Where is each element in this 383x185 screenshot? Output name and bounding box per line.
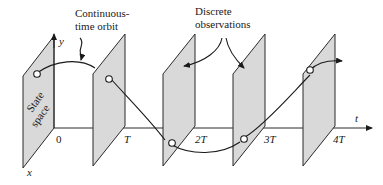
- state-plane-4T: [303, 34, 335, 166]
- t-axis-label: t: [355, 112, 359, 124]
- state-space-diagram: Continuous- time orbit Discrete observat…: [0, 0, 383, 185]
- time-tick-T: T: [124, 133, 131, 145]
- observation-point-0: [34, 71, 41, 78]
- observation-point-3T: [241, 136, 248, 143]
- state-plane-2T: [163, 34, 195, 166]
- time-tick-0: 0: [56, 133, 62, 145]
- observation-point-2T: [169, 140, 176, 147]
- state-plane-T: [93, 34, 125, 166]
- x-axis-label: x: [26, 166, 32, 178]
- continuous-orbit-label-line2: time orbit: [75, 20, 118, 32]
- y-axis-label: y: [58, 35, 64, 47]
- state-plane-3T: [233, 34, 265, 166]
- time-tick-2T: 2T: [195, 133, 208, 145]
- discrete-observations-label-line1: Discrete: [195, 5, 232, 17]
- observation-point-4T: [307, 67, 314, 74]
- time-tick-3T: 3T: [263, 133, 277, 145]
- observation-point-T: [106, 76, 113, 83]
- discrete-observations-label-line2: observations: [195, 18, 251, 30]
- time-tick-4T: 4T: [333, 133, 346, 145]
- continuous-orbit-leader: [80, 38, 82, 60]
- continuous-orbit-label-line1: Continuous-: [75, 7, 130, 19]
